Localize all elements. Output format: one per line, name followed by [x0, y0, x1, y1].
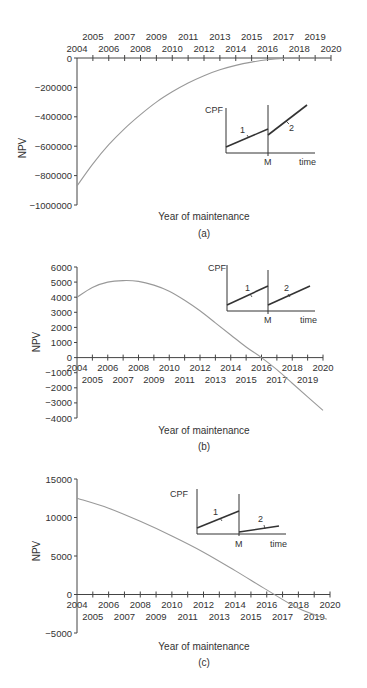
inset-c-cpf-diagram	[197, 489, 286, 536]
x-tick-label: 2007	[114, 611, 135, 622]
x-tick-label: 2018	[282, 362, 303, 373]
y-tick-label: −3000	[45, 397, 72, 408]
x-tick-label: 2005	[82, 374, 103, 385]
x-tick-label: 2009	[146, 31, 167, 42]
x-tick-label: 2017	[266, 374, 287, 385]
y-tick-label: 10000	[46, 512, 72, 523]
inset-b-cpf-diagram	[227, 265, 315, 314]
x-tick-label: 2017	[273, 31, 294, 42]
inset-b-ylabel: CPF	[208, 263, 227, 273]
y-tick-label: 6000	[51, 262, 72, 273]
inset-c-segment-1-label: 1	[213, 507, 218, 517]
x-tick-label: 2005	[82, 31, 103, 42]
inset-a-segment-1-label: 1	[240, 125, 245, 135]
x-tick-label: 2014	[220, 362, 241, 373]
chart-b-xlabel: Year of maintenance	[158, 425, 249, 436]
inset-c-m-label: M	[235, 539, 243, 549]
chart-a-ylabel: NPV	[17, 138, 28, 159]
x-tick-label: 2011	[177, 611, 197, 622]
y-tick-label: 15000	[46, 474, 72, 485]
x-tick-label: 2004	[66, 43, 87, 54]
y-tick-label: −800000	[35, 170, 72, 181]
x-tick-label: 2006	[97, 362, 118, 373]
x-tick-label: 2008	[130, 43, 151, 54]
x-tick-label: 2014	[225, 599, 246, 610]
inset-a-ylabel: CPF	[205, 105, 224, 115]
x-tick-label: 2011	[178, 31, 198, 42]
x-tick-label: 2006	[98, 43, 119, 54]
inset-a-xlabel: time	[299, 157, 316, 167]
x-tick-label: 2013	[209, 31, 230, 42]
x-tick-label: 2012	[193, 599, 214, 610]
x-tick-label: 2016	[257, 43, 278, 54]
x-tick-label: 2005	[82, 611, 103, 622]
x-tick-label: 2008	[128, 362, 149, 373]
y-tick-label: −600000	[35, 141, 72, 152]
x-tick-label: 2019	[305, 31, 326, 42]
y-tick-label: −5000	[45, 628, 72, 639]
npv-curve	[77, 58, 315, 186]
inset-a-m-label: M	[264, 157, 272, 167]
chart-b-ylabel: NPV	[31, 332, 42, 353]
x-tick-label: 2010	[161, 599, 182, 610]
x-tick-label: 2013	[205, 374, 226, 385]
x-tick-label: 2015	[241, 31, 262, 42]
x-tick-label: 2007	[113, 374, 134, 385]
x-tick-label: 2020	[320, 43, 341, 54]
inset-c-xlabel: time	[270, 539, 287, 549]
y-tick-label: 0	[67, 53, 72, 64]
chart-b-npv: 6000500040003000200010000−1000−2000−3000…	[45, 262, 333, 424]
chart-c-npv: 150001000050000−500020042006200820102012…	[45, 474, 340, 639]
y-tick-label: −4000	[45, 413, 72, 424]
x-tick-label: 2008	[130, 599, 151, 610]
x-tick-label: 2006	[98, 599, 119, 610]
inset-c-ylabel: CPF	[170, 489, 189, 499]
inset-b-segment-1-label: 1	[245, 283, 250, 293]
x-tick-label: 2007	[114, 31, 135, 42]
y-tick-label: −400000	[35, 111, 72, 122]
x-tick-label: 2010	[159, 362, 180, 373]
x-tick-label: 2011	[174, 374, 194, 385]
x-tick-label: 2018	[289, 43, 310, 54]
x-tick-label: 2012	[193, 43, 214, 54]
x-tick-label: 2020	[319, 599, 340, 610]
figure-canvas: 0−200000−400000−600000−800000−1000000200…	[0, 0, 367, 688]
chart-a-caption: (a)	[198, 228, 210, 239]
npv-curve	[77, 281, 323, 411]
x-tick-label: 2017	[272, 611, 293, 622]
chart-a-npv: 0−200000−400000−600000−800000−1000000200…	[29, 31, 341, 211]
x-tick-label: 2010	[162, 43, 183, 54]
x-tick-label: 2019	[297, 374, 318, 385]
inset-b-segment-2-label: 2	[284, 283, 289, 293]
x-tick-label: 2015	[236, 374, 257, 385]
x-tick-label: 2009	[145, 611, 166, 622]
chart-c-caption: (c)	[198, 657, 210, 668]
y-tick-label: 4000	[51, 292, 72, 303]
x-tick-label: 2013	[209, 611, 230, 622]
x-tick-label: 2004	[66, 599, 87, 610]
y-tick-label: −1000000	[29, 200, 72, 211]
chart-a-xlabel: Year of maintenance	[158, 211, 249, 222]
x-tick-label: 2004	[66, 362, 87, 373]
y-tick-label: −200000	[35, 82, 72, 93]
inset-b-m-label: M	[264, 315, 272, 325]
chart-c-ylabel: NPV	[31, 541, 42, 562]
x-tick-label: 2016	[256, 599, 277, 610]
inset-a-segment-2-label: 2	[289, 123, 294, 133]
chart-b-caption: (b)	[198, 441, 210, 452]
x-tick-label: 2014	[225, 43, 246, 54]
y-tick-label: 2000	[51, 322, 72, 333]
y-tick-label: 5000	[51, 551, 72, 562]
inset-c-segment-2-label: 2	[258, 514, 263, 524]
x-tick-label: 2015	[240, 611, 261, 622]
y-tick-label: 1000	[51, 337, 72, 348]
y-tick-label: 3000	[51, 307, 72, 318]
x-tick-label: 2012	[189, 362, 210, 373]
x-tick-label: 2020	[312, 362, 333, 373]
inset-b-xlabel: time	[300, 315, 317, 325]
y-tick-label: −2000	[45, 382, 72, 393]
chart-c-xlabel: Year of maintenance	[158, 641, 249, 652]
y-tick-label: 5000	[51, 277, 72, 288]
x-tick-label: 2009	[143, 374, 164, 385]
